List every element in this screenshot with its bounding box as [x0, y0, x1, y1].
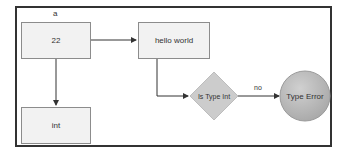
variable-caption: a [53, 9, 57, 18]
node-label: 22 [52, 36, 61, 45]
edge-label-no: no [254, 84, 262, 91]
node-label: hello world [155, 36, 193, 45]
type-error-label: Type Error [280, 90, 330, 102]
decision-label: Is Type Int [190, 90, 238, 102]
edge-hello-to-diamond [157, 59, 188, 96]
node-hello-world: hello world [138, 22, 210, 59]
node-value-22: 22 [21, 22, 91, 59]
node-label: int [52, 121, 60, 130]
node-int: int [21, 107, 91, 144]
